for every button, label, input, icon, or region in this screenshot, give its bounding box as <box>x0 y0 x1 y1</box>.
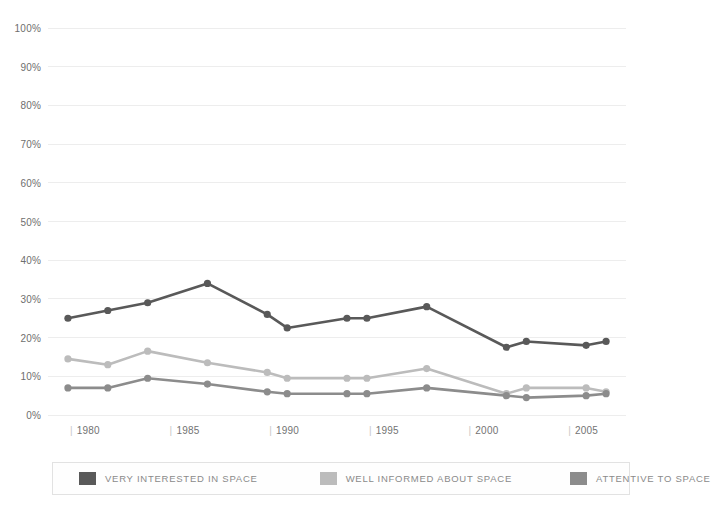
data-point[interactable] <box>523 384 530 391</box>
data-point[interactable] <box>144 299 151 306</box>
legend-swatch-icon <box>79 472 96 485</box>
legend-label: ATTENTIVE TO SPACE <box>596 473 711 484</box>
x-axis-tick-label: |1980 <box>70 425 100 436</box>
data-point[interactable] <box>583 392 590 399</box>
data-point[interactable] <box>363 315 370 322</box>
x-axis-tick-text: 1980 <box>77 425 100 436</box>
y-axis-tick-label: 40% <box>0 255 41 266</box>
x-axis-tick-label: |2000 <box>469 425 499 436</box>
legend-swatch-icon <box>570 472 587 485</box>
y-axis-tick-label: 100% <box>0 23 41 34</box>
y-axis-tick-label: 80% <box>0 100 41 111</box>
legend-items: VERY INTERESTED IN SPACEWELL INFORMED AB… <box>53 472 711 485</box>
legend-item[interactable]: ATTENTIVE TO SPACE <box>570 472 711 485</box>
x-axis-tick-text: 1985 <box>176 425 199 436</box>
tick-mark-icon: | <box>269 425 272 436</box>
data-point[interactable] <box>363 390 370 397</box>
tick-mark-icon: | <box>70 425 73 436</box>
data-point[interactable] <box>284 390 291 397</box>
legend-swatch-icon <box>320 472 337 485</box>
y-axis-tick-label: 20% <box>0 332 41 343</box>
data-point[interactable] <box>343 390 350 397</box>
data-point[interactable] <box>523 338 530 345</box>
data-point[interactable] <box>523 394 530 401</box>
data-point[interactable] <box>144 375 151 382</box>
data-point[interactable] <box>583 342 590 349</box>
data-point[interactable] <box>104 384 111 391</box>
x-axis-tick-text: 2005 <box>575 425 598 436</box>
x-axis-tick-label: |1985 <box>170 425 200 436</box>
data-point[interactable] <box>583 384 590 391</box>
y-axis-tick-label: 60% <box>0 177 41 188</box>
data-point[interactable] <box>423 365 430 372</box>
data-point[interactable] <box>264 369 271 376</box>
x-axis-tick-label: |1995 <box>369 425 399 436</box>
data-point[interactable] <box>284 324 291 331</box>
data-point[interactable] <box>104 361 111 368</box>
data-point[interactable] <box>423 303 430 310</box>
x-axis-tick-text: 2000 <box>475 425 498 436</box>
legend-item[interactable]: WELL INFORMED ABOUT SPACE <box>320 472 512 485</box>
tick-mark-icon: | <box>469 425 472 436</box>
data-point[interactable] <box>144 348 151 355</box>
x-axis-tick-label: |2005 <box>568 425 598 436</box>
legend-label: VERY INTERESTED IN SPACE <box>105 473 258 484</box>
y-axis-tick-label: 0% <box>0 410 41 421</box>
data-point[interactable] <box>602 338 609 345</box>
y-axis-tick-label: 10% <box>0 371 41 382</box>
chart-legend: VERY INTERESTED IN SPACEWELL INFORMED AB… <box>52 462 630 495</box>
data-point[interactable] <box>503 344 510 351</box>
y-axis-tick-label: 70% <box>0 139 41 150</box>
data-point[interactable] <box>204 280 211 287</box>
data-point[interactable] <box>264 388 271 395</box>
data-point[interactable] <box>284 375 291 382</box>
tick-mark-icon: | <box>568 425 571 436</box>
y-axis-tick-label: 30% <box>0 293 41 304</box>
data-point[interactable] <box>423 384 430 391</box>
y-axis-tick-label: 50% <box>0 216 41 227</box>
data-point[interactable] <box>264 311 271 318</box>
gridlines <box>48 28 626 415</box>
plot-svg <box>0 0 641 455</box>
data-point[interactable] <box>363 375 370 382</box>
data-point[interactable] <box>602 390 609 397</box>
x-axis-tick-text: 1995 <box>376 425 399 436</box>
legend-item[interactable]: VERY INTERESTED IN SPACE <box>79 472 258 485</box>
data-point[interactable] <box>64 355 71 362</box>
tick-mark-icon: | <box>369 425 372 436</box>
data-point[interactable] <box>503 392 510 399</box>
data-point[interactable] <box>343 315 350 322</box>
plot-area: 0%10%20%30%40%50%60%70%80%90%100% |1980|… <box>0 0 641 455</box>
x-axis-tick-label: |1990 <box>269 425 299 436</box>
data-point[interactable] <box>64 384 71 391</box>
data-point[interactable] <box>204 380 211 387</box>
y-axis-tick-label: 90% <box>0 61 41 72</box>
legend-label: WELL INFORMED ABOUT SPACE <box>346 473 512 484</box>
data-point[interactable] <box>64 315 71 322</box>
data-point[interactable] <box>104 307 111 314</box>
tick-mark-icon: | <box>170 425 173 436</box>
series-points <box>64 280 609 401</box>
data-point[interactable] <box>343 375 350 382</box>
x-axis-tick-text: 1990 <box>276 425 299 436</box>
data-point[interactable] <box>204 359 211 366</box>
